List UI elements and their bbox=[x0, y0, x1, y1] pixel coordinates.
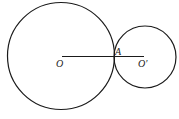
label-center-o: O bbox=[56, 58, 63, 69]
label-center-o-prime: O′ bbox=[138, 58, 148, 69]
label-point-a: A bbox=[114, 46, 122, 57]
tangent-circles-diagram: O A O′ bbox=[0, 0, 179, 119]
